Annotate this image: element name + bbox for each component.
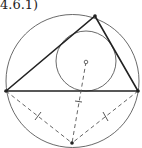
vertex-top [93,14,97,18]
dashed-incenter-to-arc-midpoint [72,62,86,143]
arc-midpoint [70,141,74,145]
vertex-left [4,89,8,93]
incenter-point [84,60,88,64]
dashed-left-vertex-to-arc-midpoint [6,91,72,143]
triangle [6,16,138,91]
geometry-diagram [0,0,142,148]
vertex-right [136,89,140,93]
tick-mark-center [75,101,82,102]
tick-mark-right [103,112,108,121]
tick-mark-left [35,112,41,120]
